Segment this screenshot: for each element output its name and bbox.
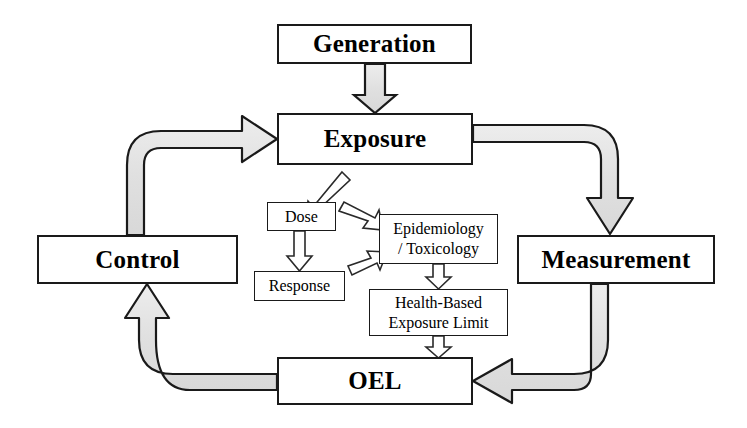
arrow-hbel-to-oel [426,336,451,358]
arrow-dose-to-response [287,231,312,271]
node-control[interactable]: Control [37,235,238,284]
node-response[interactable]: Response [254,271,345,301]
node-control-label: Control [91,246,183,274]
node-epidemiology-toxicology[interactable]: Epidemiology / Toxicology [379,214,498,264]
arrow-dose-to-epitox [339,202,383,230]
arrow-control-to-exposure [127,116,277,235]
node-health-based-exposure-limit-label: Health-Based Exposure Limit [385,293,493,332]
node-dose-label: Dose [281,207,322,227]
node-measurement-label: Measurement [538,246,695,274]
node-oel-label: OEL [344,367,405,395]
node-health-based-exposure-limit[interactable]: Health-Based Exposure Limit [369,289,508,336]
diagram-canvas: Generation Exposure Control Measurement … [0,0,747,428]
node-response-label: Response [265,276,334,296]
node-generation-label: Generation [309,30,440,58]
node-generation[interactable]: Generation [277,24,472,64]
node-exposure[interactable]: Exposure [277,113,473,165]
node-oel[interactable]: OEL [277,357,473,405]
node-measurement[interactable]: Measurement [517,235,715,284]
arrow-epitox-to-hbel [426,264,451,289]
node-exposure-label: Exposure [320,125,431,153]
node-dose[interactable]: Dose [267,202,336,231]
arrow-generation-to-exposure [354,64,396,113]
node-epidemiology-toxicology-label: Epidemiology / Toxicology [389,219,488,258]
